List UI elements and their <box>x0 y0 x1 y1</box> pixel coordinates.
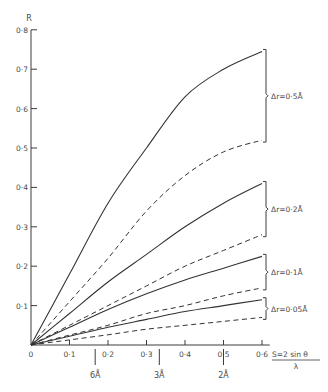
curves <box>31 52 262 346</box>
secondary-x-tick-label: 6Å <box>90 369 101 380</box>
y-tick-label: 0·6 <box>16 105 28 114</box>
bracket-label: Δr=0·05Å <box>271 305 308 314</box>
secondary-x-tick-label: 2Å <box>218 369 229 380</box>
y-tick-label: 0·2 <box>16 262 28 271</box>
x-tick-label: 0·3 <box>141 350 153 359</box>
y-tick-label: 0·4 <box>16 183 28 192</box>
curve-solid <box>31 52 262 346</box>
bracket <box>263 181 268 236</box>
x-tick-label: 0·1 <box>64 350 76 359</box>
curve-solid <box>31 256 262 345</box>
y-tick-label: 0·7 <box>16 65 28 74</box>
axes: R0·10·20·30·40·50·60·70·800·10·20·30·40·… <box>16 14 320 380</box>
secondary-x-tick-label: 3Å <box>154 369 165 380</box>
x-tick-label: 0 <box>29 350 34 359</box>
x-axis-label-denominator: λ <box>294 362 299 371</box>
curve-dashed <box>31 140 262 345</box>
bracket-label: Δr=0·1Å <box>271 268 303 277</box>
y-tick-label: 0·8 <box>16 26 28 35</box>
bracket-annotations: Δr=0·5ÅΔr=0·2ÅΔr=0·1ÅΔr=0·05Å <box>263 49 308 319</box>
bracket <box>263 49 268 142</box>
bracket-label: Δr=0·2Å <box>271 205 303 214</box>
chart: R0·10·20·30·40·50·60·70·800·10·20·30·40·… <box>0 0 328 392</box>
y-axis-label: R <box>26 14 32 23</box>
y-tick-label: 0·1 <box>16 302 28 311</box>
y-tick-label: 0·3 <box>16 223 28 232</box>
y-tick-label: 0·5 <box>16 144 28 153</box>
bracket <box>263 254 268 290</box>
bracket-label: Δr=0·5Å <box>271 92 303 101</box>
x-axis-label-numerator: S=2 sin θ <box>272 350 308 359</box>
bracket <box>263 298 268 320</box>
curve-dashed <box>31 235 262 345</box>
x-tick-label: 0·4 <box>179 350 191 359</box>
x-tick-label: 0·6 <box>256 350 268 359</box>
x-tick-label: 0·2 <box>102 350 114 359</box>
